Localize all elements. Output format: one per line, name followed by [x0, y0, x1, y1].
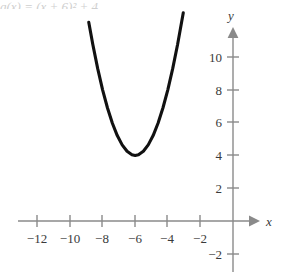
- x-tick-label-neg6: −6: [128, 232, 142, 245]
- x-tick-label-neg8: −8: [95, 232, 109, 245]
- y-axis-arrow: [228, 27, 239, 38]
- y-axis-group: [227, 27, 239, 272]
- x-tick-label-neg4: −4: [160, 232, 174, 245]
- y-axis-label: y: [228, 9, 234, 22]
- y-tick-label-8: 8: [196, 84, 222, 97]
- y-tick-label-4: 4: [196, 149, 222, 162]
- y-tick-label-10: 10: [196, 51, 222, 64]
- y-tick-label-6: 6: [196, 116, 222, 129]
- x-tick-label-neg10: −10: [60, 232, 80, 245]
- x-tick-label-neg2: −2: [193, 232, 207, 245]
- y-tick-label-2: 2: [196, 182, 222, 195]
- x-axis-arrow: [249, 216, 260, 227]
- graph-figure: g(x) = (x + 6)² + 4 −12 −10 −8 −6 −4 −2: [0, 0, 290, 274]
- y-tick-label-neg2: −2: [190, 248, 222, 261]
- parabola-curve: [89, 13, 184, 156]
- x-tick-label-neg12: −12: [27, 232, 47, 245]
- x-axis-label: x: [266, 215, 272, 228]
- x-axis-group: [18, 215, 260, 227]
